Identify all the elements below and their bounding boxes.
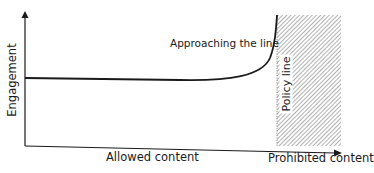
y-axis-label: Engagement [7,43,19,116]
x-axis-label-allowed: Allowed content [106,152,199,164]
y-axis-arrow-icon [22,11,29,18]
policy-line-label: Policy line [280,55,293,114]
curve-annotation: Approaching the line [170,38,279,49]
x-axis-label-prohibited: Prohibited content [268,153,374,165]
